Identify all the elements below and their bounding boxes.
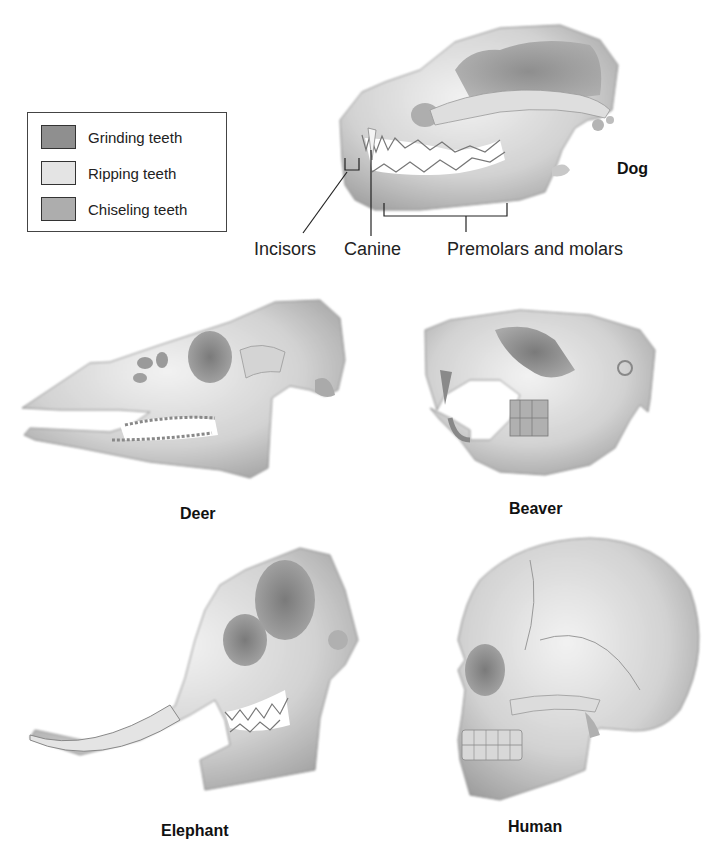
legend-label: Ripping teeth — [88, 165, 176, 182]
elephant-label: Elephant — [161, 822, 229, 840]
legend-label: Chiseling teeth — [88, 201, 187, 218]
chiseling-teeth-swatch — [41, 197, 76, 221]
deer-label: Deer — [180, 505, 216, 523]
canine-label: Canine — [344, 239, 401, 260]
legend-item-ripping: Ripping teeth — [41, 161, 176, 185]
deer-skull — [22, 300, 345, 478]
incisors-pointer-line — [303, 172, 347, 233]
premolars-molars-label: Premolars and molars — [447, 239, 623, 260]
human-label: Human — [508, 818, 562, 836]
teeth-type-legend: Grinding teeth Ripping teeth Chiseling t… — [27, 112, 227, 232]
dog-label: Dog — [617, 160, 648, 178]
elephant-skull — [30, 548, 358, 790]
beaver-skull — [425, 310, 655, 475]
legend-item-chiseling: Chiseling teeth — [41, 197, 187, 221]
legend-item-grinding: Grinding teeth — [41, 125, 182, 149]
beaver-label: Beaver — [509, 500, 562, 518]
human-skull — [458, 538, 699, 800]
legend-label: Grinding teeth — [88, 129, 182, 146]
grinding-teeth-swatch — [41, 125, 76, 149]
ripping-teeth-swatch — [41, 161, 76, 185]
dog-skull — [340, 25, 618, 210]
incisors-label: Incisors — [254, 239, 316, 260]
